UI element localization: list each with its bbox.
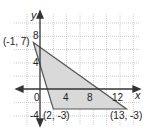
tick-y-8: 8 bbox=[33, 30, 39, 41]
tick-x-4: 4 bbox=[63, 92, 69, 103]
tick-x-12: 12 bbox=[112, 92, 124, 103]
x-axis-left-arrow-icon bbox=[16, 86, 23, 92]
tick-y-neg4: -4 bbox=[30, 110, 39, 121]
y-axis-arrow-icon bbox=[37, 11, 43, 18]
coordinate-plane: y x 0 4 8 12 8 4 -4 (-1, 7) (2, -3) (13,… bbox=[0, 0, 148, 133]
tick-y-4: 4 bbox=[33, 57, 39, 68]
y-axis-label: y bbox=[30, 9, 38, 21]
tick-origin: 0 bbox=[34, 92, 40, 103]
vertex-label-c: (13, -3) bbox=[110, 110, 142, 121]
tick-x-8: 8 bbox=[87, 92, 93, 103]
x-axis-label: x bbox=[134, 89, 141, 101]
vertex-label-b: (2, -3) bbox=[43, 110, 70, 121]
vertex-label-a: (-1, 7) bbox=[3, 36, 30, 47]
